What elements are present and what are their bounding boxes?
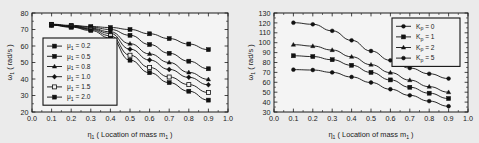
data-point-marker [402,35,406,39]
data-point-marker [69,25,73,29]
x-tick-label: 0.4 [347,114,357,123]
data-point-marker [128,53,132,57]
chart-panel-right: 0.00.10.20.30.40.50.60.70.80.91.03040506… [240,0,479,143]
y-tick-label: 70 [263,68,271,77]
data-point-marker [350,63,354,67]
figure-root: 0.00.10.20.30.40.50.60.70.80.91.02030405… [0,0,479,143]
y-axis-label: ω1 ( rad/s ) [5,44,15,80]
data-point-marker [128,58,132,62]
x-tick-label: 0.6 [145,114,155,123]
y-tick-label: 80 [263,58,271,67]
x-tick-label: 0.5 [125,114,135,123]
y-axis-label-text: ω1 ( rad/s ) [5,44,15,80]
legend: Kp = 0Kp = 1Kp = 2Kp = 5 [392,18,460,66]
x-tick-label: 1.0 [463,114,473,123]
plot-right: 0.00.10.20.30.40.50.60.70.80.91.03040506… [240,0,479,143]
data-point-marker [350,38,354,42]
x-tick-label: 0.9 [444,114,454,123]
data-point-marker [408,93,412,97]
y-tick-label: 30 [21,91,29,100]
data-point-marker [128,33,132,37]
data-point-marker [330,58,334,62]
data-point-marker [408,85,412,89]
y-tick-label: 60 [21,42,29,51]
x-tick-label: 0.7 [405,114,415,123]
x-tick-label: 0.1 [288,114,298,123]
y-tick-label: 90 [263,48,271,57]
data-point-marker [292,21,296,25]
x-axis-label-text: η1 ( Location of mass m1 ) [87,130,172,140]
data-point-marker [167,51,171,55]
y-tick-label: 70 [21,25,29,34]
data-point-marker [427,99,431,103]
x-tick-label: 0.2 [66,114,76,123]
y-tick-label: 100 [259,38,271,47]
data-point-marker [292,68,296,72]
data-point-marker [311,22,315,26]
data-point-marker [369,49,373,53]
data-point-marker [402,24,406,28]
y-tick-label: 20 [21,108,29,117]
x-tick-label: 0.9 [203,114,213,123]
x-tick-label: 0.1 [47,114,57,123]
data-point-marker [53,95,57,99]
y-axis-label-text: ω1 ( rad/s ) [246,44,256,80]
data-point-marker [53,44,57,48]
data-point-marker [311,68,315,72]
data-point-marker [447,77,451,81]
x-axis-label: η1 ( Location of mass m1 ) [87,130,172,140]
data-point-marker [388,78,392,82]
x-tick-label: 0.8 [184,114,194,123]
data-point-marker [291,54,295,58]
y-tick-label: 40 [21,75,29,84]
x-tick-label: 0.6 [385,114,395,123]
x-tick-label: 0.0 [27,114,37,123]
y-axis-label: ω1 ( rad/s ) [246,44,256,80]
data-point-marker [187,59,191,63]
y-tick-label: 130 [259,9,271,18]
data-point-marker [402,56,406,60]
data-point-marker [206,67,210,71]
data-point-marker [427,91,431,95]
x-tick-label: 0.4 [105,114,115,123]
data-point-marker [369,70,373,74]
y-tick-label: 40 [263,98,271,107]
x-tick-label: 0.7 [164,114,174,123]
x-tick-label: 0.0 [269,114,279,123]
data-point-marker [50,23,54,27]
data-point-marker [447,104,451,108]
y-tick-label: 30 [263,108,271,117]
data-point-marker [167,75,171,79]
data-point-marker [187,89,191,93]
y-tick-label: 80 [21,9,29,18]
data-point-marker [427,72,431,76]
data-point-marker [53,54,57,58]
x-axis-label-text: η1 ( Location of mass m1 ) [328,130,413,140]
x-tick-label: 0.2 [308,114,318,123]
data-point-marker [53,85,57,89]
data-point-marker [330,71,334,75]
x-tick-label: 1.0 [223,114,233,123]
data-point-marker [369,81,373,85]
data-point-marker [167,37,171,41]
legend: μ1 = 0.2μ1 = 0.5μ1 = 0.8μ1 = 1.0μ1 = 1.5… [43,38,117,105]
data-point-marker [89,28,93,32]
data-point-marker [206,48,210,52]
data-point-marker [350,75,354,79]
plot-left: 0.00.10.20.30.40.50.60.70.80.91.02030405… [0,0,239,143]
data-point-marker [148,32,152,36]
x-tick-label: 0.3 [327,114,337,123]
x-tick-label: 0.8 [424,114,434,123]
y-tick-label: 50 [263,88,271,97]
data-point-marker [330,29,334,33]
data-point-marker [148,65,152,69]
x-tick-label: 0.3 [86,114,96,123]
data-point-marker [187,42,191,46]
y-tick-label: 60 [263,78,271,87]
x-tick-label: 0.5 [366,114,376,123]
data-point-marker [187,83,191,87]
y-tick-label: 110 [259,28,270,37]
data-point-marker [311,55,315,59]
x-axis-label: η1 ( Location of mass m1 ) [328,130,413,140]
data-point-marker [128,28,132,32]
